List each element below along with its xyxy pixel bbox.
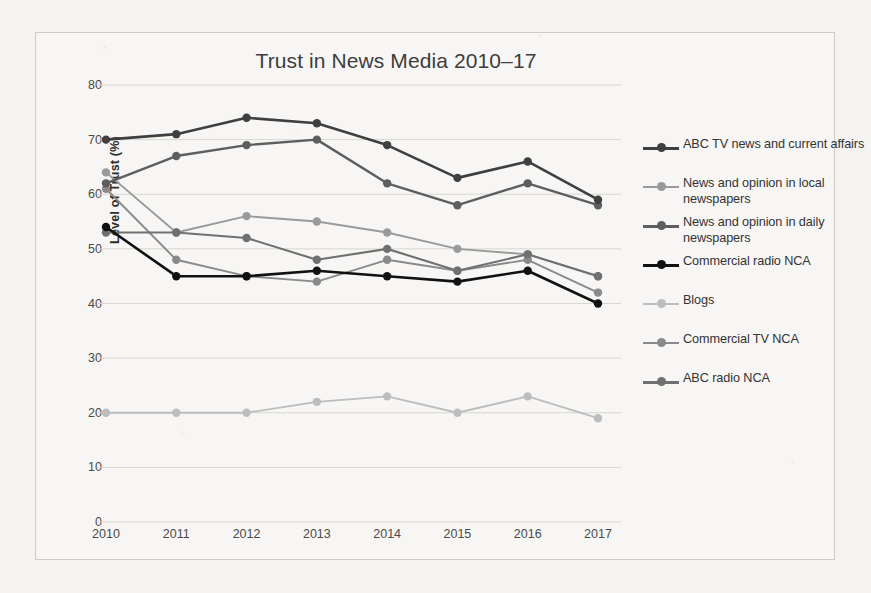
series-blogs	[102, 392, 602, 422]
legend-marker-icon	[642, 295, 680, 312]
data-point	[594, 414, 602, 422]
series-line	[106, 227, 598, 303]
data-point	[172, 228, 180, 236]
x-tick-label: 2015	[427, 527, 487, 541]
legend-dot-icon	[657, 299, 666, 308]
legend-item[interactable]: ABC TV news and current affairs	[642, 137, 871, 171]
legend-marker-icon	[642, 139, 680, 156]
data-point	[453, 267, 461, 275]
data-point	[313, 135, 321, 143]
legend-item[interactable]: News and opinion in local newspapers	[642, 176, 871, 210]
data-point	[172, 409, 180, 417]
x-tick-label: 2012	[217, 527, 277, 541]
legend-marker-icon	[642, 334, 680, 351]
data-point	[524, 267, 532, 275]
legend-item-label: News and opinion in local newspapers	[680, 176, 871, 207]
data-point	[102, 168, 110, 176]
data-point	[242, 234, 250, 242]
legend-dot-icon	[657, 377, 666, 386]
data-point	[383, 141, 391, 149]
data-point	[313, 217, 321, 225]
legend-dot-icon	[657, 221, 666, 230]
legend-item[interactable]: News and opinion in daily newspapers	[642, 215, 871, 249]
data-point	[453, 409, 461, 417]
data-point	[102, 409, 110, 417]
data-point	[102, 135, 110, 143]
data-point	[453, 174, 461, 182]
data-point	[242, 272, 250, 280]
data-point	[383, 272, 391, 280]
legend-item[interactable]: ABC radio NCA	[642, 371, 871, 405]
data-point	[242, 409, 250, 417]
legend-dot-icon	[657, 143, 666, 152]
data-point	[383, 228, 391, 236]
data-point	[242, 141, 250, 149]
data-point	[383, 392, 391, 400]
legend-item-label: ABC radio NCA	[680, 371, 770, 387]
data-point	[453, 201, 461, 209]
legend-item-label: Commercial radio NCA	[680, 254, 811, 270]
x-tick-label: 2010	[76, 527, 136, 541]
data-point	[383, 245, 391, 253]
chart-frame: Trust in News Media 2010–17 Level of Tru…	[35, 32, 835, 560]
legend-item-label: ABC TV news and current affairs	[680, 137, 864, 153]
legend-marker-icon	[642, 256, 680, 273]
legend-item[interactable]: Commercial radio NCA	[642, 254, 871, 288]
data-point	[524, 250, 532, 258]
data-point	[524, 179, 532, 187]
data-point	[172, 152, 180, 160]
data-point	[594, 196, 602, 204]
data-point	[172, 130, 180, 138]
data-point	[594, 288, 602, 296]
data-point	[172, 272, 180, 280]
data-point	[383, 256, 391, 264]
data-point	[313, 119, 321, 127]
x-tick-label: 2017	[568, 527, 628, 541]
legend-item-label: Commercial TV NCA	[680, 332, 799, 348]
data-point	[313, 267, 321, 275]
legend-marker-icon	[642, 373, 680, 390]
chart-legend: ABC TV news and current affairsNews and …	[642, 137, 871, 410]
data-point	[172, 256, 180, 264]
legend-marker-icon	[642, 217, 680, 234]
data-point	[453, 245, 461, 253]
data-point	[102, 179, 110, 187]
x-tick-label: 2013	[287, 527, 347, 541]
data-point	[242, 114, 250, 122]
data-point	[313, 256, 321, 264]
data-point	[524, 157, 532, 165]
data-point	[313, 277, 321, 285]
data-point	[383, 179, 391, 187]
series-line	[106, 118, 598, 200]
legend-item-label: Blogs	[680, 293, 714, 309]
x-tick-label: 2014	[357, 527, 417, 541]
legend-item-label: News and opinion in daily newspapers	[680, 215, 871, 246]
x-tick-label: 2016	[498, 527, 558, 541]
data-point	[313, 398, 321, 406]
data-point	[594, 272, 602, 280]
data-point	[102, 223, 110, 231]
legend-dot-icon	[657, 260, 666, 269]
data-point	[594, 299, 602, 307]
x-tick-label: 2011	[146, 527, 206, 541]
data-point	[453, 277, 461, 285]
legend-dot-icon	[657, 338, 666, 347]
data-point	[524, 392, 532, 400]
legend-item[interactable]: Blogs	[642, 293, 871, 327]
series-line	[106, 140, 598, 206]
legend-marker-icon	[642, 178, 680, 195]
series-news-and-opinion-in-daily-newspapers	[102, 135, 602, 209]
data-point	[242, 212, 250, 220]
legend-item[interactable]: Commercial TV NCA	[642, 332, 871, 366]
legend-dot-icon	[657, 182, 666, 191]
